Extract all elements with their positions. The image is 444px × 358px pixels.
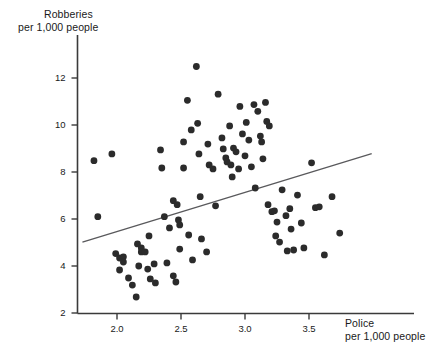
data-point (212, 202, 219, 209)
data-point (279, 186, 286, 193)
data-point (229, 174, 236, 181)
data-point (233, 148, 240, 155)
y-axis-title-line2: per 1,000 people (18, 21, 98, 34)
data-point (174, 201, 181, 208)
data-point (188, 127, 195, 134)
x-axis-title: Police per 1,000 people (345, 317, 425, 343)
data-point (235, 166, 242, 173)
data-point (158, 165, 165, 172)
data-point (180, 139, 187, 146)
tick-marks (72, 78, 310, 320)
data-point (151, 260, 158, 267)
data-point (193, 63, 200, 70)
data-point (252, 185, 259, 192)
data-point (260, 155, 267, 162)
data-point (172, 279, 179, 286)
data-point (242, 152, 249, 159)
data-point (284, 248, 291, 255)
y-tick-label: 10 (44, 119, 66, 130)
data-point (300, 245, 307, 252)
x-axis-title-line1: Police (345, 317, 425, 330)
data-point (144, 266, 151, 273)
y-tick-label: 6 (44, 213, 66, 224)
data-point (157, 147, 164, 154)
data-point (125, 275, 132, 282)
axes (78, 35, 415, 314)
data-point (184, 97, 191, 104)
y-tick-label: 8 (44, 166, 66, 177)
data-point (108, 151, 115, 158)
data-point (129, 282, 136, 289)
data-point (94, 213, 101, 220)
data-point (276, 239, 283, 246)
y-axis-title-line1: Robberies (18, 8, 98, 21)
regression-line (82, 154, 371, 242)
data-point (258, 139, 265, 146)
data-point (321, 252, 328, 259)
data-point (170, 272, 177, 279)
data-point (204, 141, 211, 148)
data-point (236, 103, 243, 110)
y-axis-title: Robberies per 1,000 people (18, 8, 98, 34)
x-axis-title-line2: per 1,000 people (345, 330, 425, 343)
data-point (120, 259, 127, 266)
data-point (248, 163, 255, 170)
data-point (180, 165, 187, 172)
data-point (254, 108, 261, 115)
data-point (266, 123, 273, 130)
data-point (219, 135, 226, 142)
data-point (243, 119, 250, 126)
data-point (203, 249, 210, 256)
data-point (288, 226, 295, 233)
data-point (262, 99, 269, 106)
scatter-plot-figure: Robberies per 1,000 people Police per 1,… (0, 0, 444, 358)
data-point (133, 294, 140, 301)
data-point (308, 159, 315, 166)
data-point (298, 220, 305, 227)
data-points (91, 63, 344, 300)
plot-canvas (0, 0, 444, 358)
data-point (286, 205, 293, 212)
data-point (176, 221, 183, 228)
data-point (257, 133, 264, 140)
y-tick-label: 2 (44, 307, 66, 318)
data-point (220, 146, 227, 153)
data-point (316, 203, 323, 210)
data-point (228, 162, 235, 169)
data-point (210, 166, 217, 173)
data-point (271, 207, 278, 214)
data-point (164, 260, 171, 267)
data-point (239, 131, 246, 138)
data-point (283, 212, 290, 219)
data-point (251, 101, 258, 108)
data-point (336, 230, 343, 237)
data-point (166, 225, 173, 232)
data-point (272, 233, 279, 240)
data-point (91, 157, 98, 164)
data-point (197, 193, 204, 200)
x-tick-label: 2.0 (104, 323, 130, 334)
data-point (226, 123, 233, 130)
data-point (116, 267, 123, 274)
x-tick-label: 3.0 (232, 323, 258, 334)
x-tick-label: 3.5 (296, 323, 322, 334)
data-point (329, 193, 336, 200)
data-point (176, 246, 183, 253)
data-point (146, 233, 153, 240)
data-point (198, 236, 205, 243)
y-tick-label: 4 (44, 260, 66, 271)
data-point (152, 280, 159, 287)
data-point (215, 91, 222, 98)
data-point (294, 192, 301, 199)
data-point (185, 232, 192, 239)
data-point (194, 120, 201, 127)
data-point (161, 213, 168, 220)
data-point (274, 219, 281, 226)
data-point (265, 201, 272, 208)
data-point (245, 137, 252, 144)
data-point (135, 263, 142, 270)
data-point (142, 249, 149, 256)
data-point (290, 247, 297, 254)
y-tick-label: 12 (44, 72, 66, 83)
data-point (196, 151, 203, 158)
